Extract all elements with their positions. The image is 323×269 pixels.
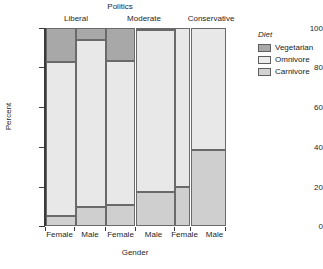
bar-conservative-female[interactable] [175, 28, 190, 226]
segment-omnivore [176, 28, 189, 187]
legend-label-carnivore: Carnivore [275, 67, 310, 76]
mosaic-chart-figure: Politics Liberal Moderate Conservative 1… [0, 0, 323, 269]
y-tick-0 [39, 226, 44, 227]
x-tick-label-liberal-female: Female [43, 230, 76, 239]
bars-container [46, 28, 225, 226]
segment-omnivore [192, 28, 225, 150]
panel-label-liberal: Liberal [45, 14, 107, 23]
legend-label-vegetarian: Vegetarian [275, 43, 313, 52]
segment-vegetarian [107, 28, 135, 61]
x-tick-label-conservative-male: Male [198, 230, 231, 239]
segment-omnivore [107, 61, 135, 205]
segment-carnivore [137, 192, 174, 226]
panel-label-moderate: Moderate [110, 14, 178, 23]
x-tick-label-liberal-male: Male [75, 230, 105, 239]
y-tick-label-100: 100 [287, 24, 323, 33]
bar-conservative-male[interactable] [191, 28, 226, 226]
y-tick-label-40: 40 [287, 143, 323, 152]
segment-omnivore [137, 30, 174, 192]
plot-area [45, 28, 225, 226]
legend-label-omnivore: Omnivore [275, 55, 310, 64]
bar-liberal-male[interactable] [76, 28, 106, 226]
legend-title: Diet [258, 30, 272, 39]
x-tick-label-moderate-female: Female [104, 230, 137, 239]
y-tick-label-20: 20 [287, 183, 323, 192]
segment-carnivore [192, 150, 225, 226]
y-tick-20 [39, 187, 44, 188]
x-axis-label: Gender [45, 248, 225, 257]
y-tick-100 [39, 28, 44, 29]
chart-title-politics: Politics [0, 2, 240, 11]
legend-swatch-omnivore [258, 56, 271, 64]
y-tick-80 [39, 67, 44, 68]
y-tick-60 [39, 107, 44, 108]
bar-moderate-male[interactable] [136, 28, 175, 226]
bar-moderate-female[interactable] [106, 28, 136, 226]
segment-carnivore [176, 187, 189, 226]
segment-carnivore [47, 216, 75, 226]
x-tick-label-moderate-male: Male [137, 230, 170, 239]
segment-omnivore [47, 62, 75, 216]
segment-vegetarian [77, 28, 105, 40]
bar-liberal-female[interactable] [46, 28, 76, 226]
panel-label-conservative: Conservative [180, 14, 242, 23]
y-tick-label-60: 60 [287, 103, 323, 112]
legend-swatch-vegetarian [258, 44, 271, 52]
segment-vegetarian [47, 28, 75, 62]
x-tick-label-conservative-female: Female [168, 230, 201, 239]
legend-swatch-carnivore [258, 68, 271, 76]
y-axis-label: Percent [4, 87, 13, 147]
segment-carnivore [77, 207, 105, 226]
y-tick-label-0: 0 [287, 222, 323, 231]
y-tick-40 [39, 147, 44, 148]
segment-carnivore [107, 205, 135, 226]
segment-omnivore [77, 40, 105, 207]
